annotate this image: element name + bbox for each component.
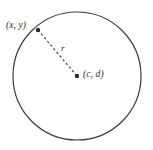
point-label-xy: (x, y): [6, 21, 26, 31]
point-marker-xy: [36, 28, 40, 32]
radius-label: r: [61, 44, 65, 53]
point-marker-cd: [75, 74, 79, 78]
point-label-cd: (c, d): [83, 70, 104, 80]
circle-radius-figure: (x, y) (c, d) r: [0, 0, 153, 150]
